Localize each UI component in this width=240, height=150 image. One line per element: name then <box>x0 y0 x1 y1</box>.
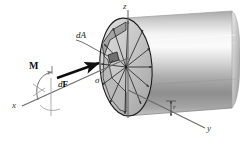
stress-label: σ <box>95 76 99 85</box>
force-element-F: F <box>63 79 69 89</box>
area-element-label: dA <box>76 31 86 40</box>
moment-arrow <box>33 66 60 110</box>
y-axis-label: y <box>207 124 211 133</box>
radius-label: r <box>173 104 176 111</box>
force-element-label: dF <box>58 79 68 89</box>
x-axis-label: x <box>12 101 16 110</box>
z-axis-label: z <box>123 2 127 11</box>
force-arrow <box>57 63 99 78</box>
torsion-figure: dA dF σ M z y x r <box>0 0 240 150</box>
torsion-diagram-svg <box>0 0 240 150</box>
moment-label: M <box>29 61 38 71</box>
